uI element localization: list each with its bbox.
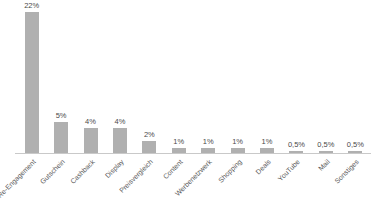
x-tick-label: Re-Engagement (0, 158, 37, 200)
bar-value-label: 0,5% (347, 140, 364, 149)
bar-value-label: 5% (56, 111, 67, 120)
bar-value-label: 1% (232, 137, 243, 146)
x-tick-label: Mail (317, 158, 332, 173)
bar-value-label: 4% (85, 117, 96, 126)
bar-value-label: 0,5% (288, 140, 305, 149)
x-tick-label: Display (104, 158, 126, 180)
x-tick-10: YouTube (283, 156, 309, 217)
bar-1: 22% (19, 6, 45, 154)
bar-value-label: 2% (144, 130, 155, 139)
bar-8: 1% (225, 6, 251, 154)
bar-9: 1% (254, 6, 280, 154)
plot-area: 22%5%4%4%2%1%1%1%1%0,5%0,5%0,5% (17, 6, 370, 154)
x-tick-1: Re-Engagement (19, 156, 45, 217)
bar-rect (25, 12, 39, 154)
bar-10: 0,5% (283, 6, 309, 154)
bar-value-label: 1% (262, 137, 273, 146)
x-tick-3: Cashback (78, 156, 104, 217)
x-axis-line (15, 153, 371, 154)
x-tick-8: Shopping (225, 156, 251, 217)
x-axis-tick-labels: Re-EngagementGutscheinCashbackDisplayPre… (17, 156, 370, 217)
x-tick-2: Gutschein (48, 156, 74, 217)
bar-5: 2% (136, 6, 162, 154)
bar-rect (113, 128, 127, 154)
bar-12: 0,5% (342, 6, 368, 154)
bar-11: 0,5% (313, 6, 339, 154)
x-tick-11: Mail (313, 156, 339, 217)
x-tick-label: YouTube (277, 158, 302, 183)
bar-6: 1% (166, 6, 192, 154)
bar-value-label: 1% (173, 137, 184, 146)
bar-7: 1% (195, 6, 221, 154)
bar-rect (54, 122, 68, 154)
bar-3: 4% (78, 6, 104, 154)
bar-value-label: 4% (115, 117, 126, 126)
bar-chart: 22%5%4%4%2%1%1%1%1%0,5%0,5%0,5% Re-Engag… (0, 0, 379, 217)
x-tick-label: Content (161, 158, 184, 181)
bar-value-label: 1% (203, 137, 214, 146)
bar-value-label: 0,5% (317, 140, 334, 149)
x-tick-7: Werbenetzwerk (195, 156, 221, 217)
bar-value-label: 22% (24, 1, 39, 10)
bar-4: 4% (107, 6, 133, 154)
bar-2: 5% (48, 6, 74, 154)
x-tick-5: Preisvergleich (136, 156, 162, 217)
bar-rect (84, 128, 98, 154)
x-tick-9: Deals (254, 156, 280, 217)
x-tick-label: Deals (254, 158, 272, 176)
x-tick-12: Sonstiges (342, 156, 368, 217)
